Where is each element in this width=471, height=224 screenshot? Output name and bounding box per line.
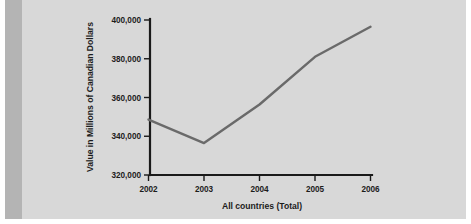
y-axis-tick-labels: 400,000 380,000 360,000 340,000 320,000 (111, 16, 141, 180)
y-tick-label: 400,000 (111, 16, 141, 25)
x-tick-label: 2004 (250, 185, 269, 194)
chart-svg: 400,000 380,000 360,000 340,000 320,000 (0, 0, 471, 224)
y-tick-label: 340,000 (111, 132, 141, 141)
x-axis-title: All countries (Total) (222, 201, 302, 211)
chart-figure: 400,000 380,000 360,000 340,000 320,000 (0, 0, 471, 224)
x-tick-label: 2003 (195, 185, 214, 194)
x-tick-label: 2005 (306, 185, 325, 194)
x-tick-label: 2006 (361, 185, 380, 194)
y-tick-label: 360,000 (111, 94, 141, 103)
y-tick-label: 380,000 (111, 55, 141, 64)
x-tick-label: 2002 (139, 185, 158, 194)
data-series-line (149, 27, 371, 143)
line-chart: 400,000 380,000 360,000 340,000 320,000 (0, 0, 471, 224)
x-axis-tick-labels: 2002 2003 2004 2005 2006 (139, 185, 380, 194)
y-axis-title: Value in Millions of Canadian Dollars (85, 22, 95, 172)
y-tick-label: 320,000 (111, 171, 141, 180)
